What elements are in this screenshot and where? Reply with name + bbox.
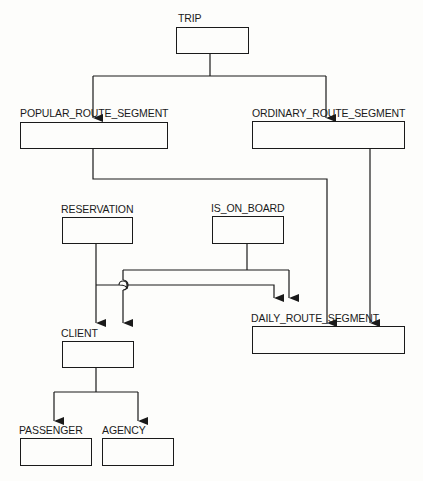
passenger-label: PASSENGER <box>19 424 83 436</box>
popular-route-segment-label: POPULAR_ROUTE_SEGMENT <box>20 107 168 119</box>
ordinary-route-segment-label: ORDINARY_ROUTE_SEGMENT <box>252 107 405 119</box>
popular-route-segment-entity-box[interactable] <box>20 122 168 149</box>
is-on-board-entity-box[interactable] <box>212 216 284 244</box>
client-label: CLIENT <box>61 327 98 339</box>
reservation-entity-box[interactable] <box>62 217 133 244</box>
reservation-label: RESERVATION <box>61 203 133 215</box>
trip-entity-box[interactable] <box>176 27 249 54</box>
agency-entity-box[interactable] <box>102 438 174 466</box>
trip-label: TRIP <box>178 12 202 24</box>
passenger-entity-box[interactable] <box>20 438 92 466</box>
daily-route-segment-entity-box[interactable] <box>252 326 405 354</box>
daily-route-segment-label: DAILY_ROUTE_SEGMENT <box>251 312 379 324</box>
agency-label: AGENCY <box>102 424 146 436</box>
ordinary-route-segment-entity-box[interactable] <box>252 121 405 149</box>
client-entity-box[interactable] <box>62 341 134 368</box>
is-on-board-label: IS_ON_BOARD <box>211 202 285 214</box>
